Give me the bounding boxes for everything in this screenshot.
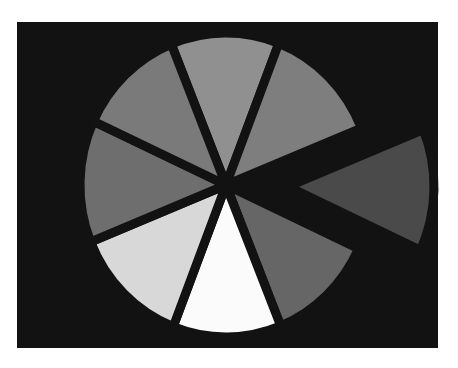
pie-chart	[0, 0, 458, 368]
